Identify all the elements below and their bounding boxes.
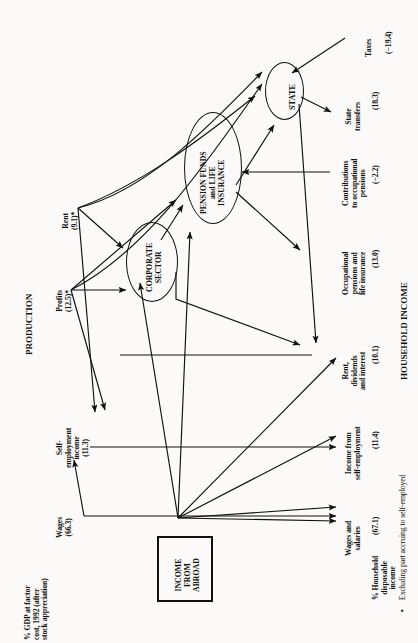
edges-from-income-from-abroad bbox=[178, 358, 336, 521]
household-item-occupational-pensions-value: (13.0) bbox=[372, 250, 381, 268]
household-rentdiv-l3: and interest bbox=[359, 352, 368, 390]
household-item-contributions-value: (−2.2) bbox=[372, 165, 381, 184]
household-item-income-from-self-employment-value: (11.4) bbox=[372, 431, 381, 449]
edges-from-wages bbox=[74, 460, 336, 516]
household-selfemp-l2: self-employment bbox=[354, 427, 363, 481]
node-income-from-abroad-l3: ABROAD bbox=[193, 558, 202, 592]
household-item-contributions-to-occupational-pensions: Contributions to occupational pensions bbox=[342, 159, 368, 208]
production-item-wages-value: (66.3) bbox=[65, 517, 74, 538]
production-item-profits-value: (12.5)* bbox=[65, 290, 74, 312]
node-corporate-sector-label: CORPORATE SECTOR bbox=[146, 243, 164, 292]
household-item-occupational-pensions: Occupational pensions and life insurance bbox=[342, 252, 368, 295]
production-item-rent: Rent (9.1)* bbox=[62, 212, 79, 230]
household-axis-caption: % Household disposable income bbox=[372, 556, 398, 600]
production-axis-caption-l3: stock appreciation) bbox=[41, 578, 50, 640]
footnote-text: Excluding part accruing to self-employed bbox=[399, 475, 408, 600]
production-axis-caption: % GDP at factor cost, 1992 (after stock … bbox=[24, 578, 50, 640]
production-item-self-employment-income: Self- employment income (11.3) bbox=[56, 428, 91, 468]
section-title-production: PRODUCTION bbox=[24, 294, 34, 355]
household-wages-l2: salaries bbox=[354, 521, 363, 556]
household-item-taxes-value: (−19.4) bbox=[385, 31, 394, 54]
node-state-label: STATE bbox=[288, 84, 298, 110]
node-corporate-sector-l2: SECTOR bbox=[155, 243, 164, 292]
household-contrib-l3: pensions bbox=[359, 159, 368, 208]
household-item-state-transfers-value: (18.3) bbox=[372, 92, 381, 110]
household-item-state-transfers: State transfers bbox=[345, 102, 362, 131]
edges-into-pension-funds bbox=[178, 232, 190, 518]
household-taxes-l1: Taxes bbox=[365, 39, 374, 57]
household-item-wages-and-salaries: Wages and salaries bbox=[345, 521, 362, 556]
household-occ-l3: life insurance bbox=[359, 252, 368, 295]
production-item-rent-value: (9.1)* bbox=[71, 212, 80, 230]
production-item-profits: Profits (12.5)* bbox=[56, 290, 73, 312]
household-item-rent-dividends-and-interest: Rent, dividends and interest bbox=[342, 352, 368, 390]
section-title-household-income: HOUSEHOLD INCOME bbox=[399, 282, 409, 380]
edges-from-pension-funds bbox=[236, 125, 330, 250]
figure-canvas: PRODUCTION HOUSEHOLD INCOME % GDP at fac… bbox=[0, 0, 418, 643]
footnote-marker: • bbox=[399, 609, 408, 612]
household-transfers-l2: transfers bbox=[354, 102, 363, 131]
household-item-taxes: Taxes bbox=[365, 39, 374, 57]
production-item-wages: Wages (66.3) bbox=[56, 517, 73, 538]
node-pension-funds-label: PENSION FUNDS and LIFE INSURANCE bbox=[200, 151, 227, 214]
node-pension-funds-l3: INSURANCE bbox=[218, 151, 227, 214]
household-item-income-from-self-employment: Income from self-employment bbox=[345, 427, 362, 481]
node-income-from-abroad-label: INCOME FROM ABROAD bbox=[175, 558, 202, 592]
node-state-l1: STATE bbox=[288, 84, 298, 110]
node-state[interactable] bbox=[265, 62, 304, 120]
household-item-wages-and-salaries-value: (67.1) bbox=[372, 517, 381, 535]
household-axis-caption-l3: income bbox=[389, 556, 398, 600]
household-item-rent-dividends-and-interest-value: (10.1) bbox=[372, 346, 381, 364]
self-employment-income-value: (11.3) bbox=[82, 428, 91, 468]
